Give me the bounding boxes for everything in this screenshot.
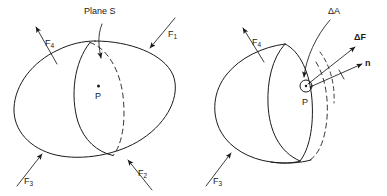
mechanics-figure: P Plane S F1 F2 F3 F4 <box>0 0 387 196</box>
normal-vector-label: n <box>365 58 371 68</box>
body-outline-right <box>215 44 311 163</box>
force-element-vector <box>308 47 355 84</box>
cut-face-front-edge <box>285 44 312 161</box>
force-1-label-left: F1 <box>168 29 178 40</box>
right-panel: P ΔA ΔF n F4 F3 <box>206 6 371 187</box>
figure-root: P Plane S F1 F2 F3 F4 <box>0 0 387 196</box>
force-3-label-right: F3 <box>213 176 223 187</box>
area-element-label: ΔA <box>328 6 340 16</box>
plane-s-front-arc <box>74 43 113 156</box>
left-panel: P Plane S F1 F2 F3 F4 <box>14 6 178 190</box>
force-element-label: ΔF <box>354 32 366 42</box>
force-3-label-left: F3 <box>24 176 34 187</box>
area-element-leader-line <box>304 20 330 77</box>
force-4-label-left: F4 <box>45 38 55 49</box>
force-2-label-left: F2 <box>138 168 148 179</box>
point-p-label-right: P <box>302 97 308 107</box>
plane-s-label: Plane S <box>84 6 116 16</box>
cut-face-inner-edge <box>268 44 300 161</box>
point-p-marker-right <box>305 85 307 87</box>
normal-vector <box>310 64 362 87</box>
point-p-label-left: P <box>95 91 101 101</box>
normal-tick-mark <box>339 70 344 79</box>
force-4-label-right: F4 <box>252 37 262 48</box>
point-p-marker-left <box>97 85 100 88</box>
